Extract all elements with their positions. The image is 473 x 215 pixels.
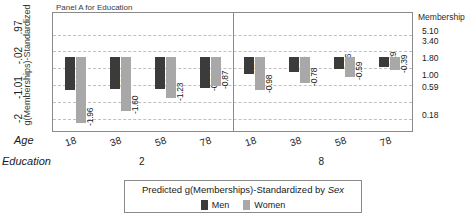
bar-value-label: -0.39 [399,55,409,73]
legend-items: Men Women [125,200,361,210]
secondary-tick-5: 0.18 [422,110,439,120]
secondary-tick-0: 5.10 [422,26,439,36]
legend-swatch-men-icon [201,200,208,210]
legend-item-men[interactable]: Men [201,200,230,210]
legend-title-text: Predicted g(Memberships)-Standardized by [142,184,328,195]
legend-swatch-women-icon [243,200,250,210]
x-tick-label-age-58: 58 [333,135,347,149]
x-tick-label-age-38: 38 [109,135,123,149]
bar-value-label: -0.98 [264,74,274,92]
group-axis-title: Education [2,155,51,167]
x-tick-label-age-38: 38 [288,135,302,149]
legend-title: Predicted g(Memberships)-Standardized by… [125,184,361,195]
secondary-tick-3: 1.00 [422,70,439,80]
y-tick-label-3: -2 [13,99,24,139]
bar-value-label: -0.59 [354,61,364,79]
group-label-education-2: 2 [122,156,162,167]
legend-item-women[interactable]: Women [243,200,285,210]
bar-value-label: -0.78 [309,68,319,86]
x-tick-label-age-78: 78 [199,135,213,149]
x-tick-label-age-78: 78 [378,135,392,149]
panel-separator [233,13,234,131]
bar-value-label: -1.96 [85,108,95,126]
secondary-tick-1: 3.40 [422,36,439,46]
x-tick-label-age-58: 58 [154,135,168,149]
x-tick-label-age-18: 18 [244,135,258,149]
secondary-tick-4: 0.59 [422,82,439,92]
legend-label-women: Women [254,200,285,210]
panel-title: Panel A for Education [56,3,133,12]
bar-value-label: -0.87 [220,71,230,89]
chart-figure: g(Memberships)-Standardized .97 -.02 -1.… [0,0,473,215]
y-axis-title: g(Memberships)-Standardized [22,0,32,140]
plot-area: -0.99-1.96-0.96-1.60-0.94-1.23-0.91-0.87… [52,12,413,132]
bar-value-label: -1.60 [130,95,140,113]
bar-value-label: -1.23 [175,83,185,101]
secondary-axis-title: Membership [418,12,465,22]
legend-title-emphasis: Sex [328,184,344,195]
legend: Predicted g(Memberships)-Standardized by… [124,180,362,213]
secondary-tick-2: 1.80 [422,53,439,63]
x-tick-label-age-18: 18 [64,135,78,149]
legend-label-men: Men [212,200,230,210]
x-axis-title: Age [14,134,34,146]
secondary-axis: Membership 5.10 3.40 1.80 1.00 0.59 0.18 [418,12,473,137]
group-label-education-8: 8 [301,156,341,167]
